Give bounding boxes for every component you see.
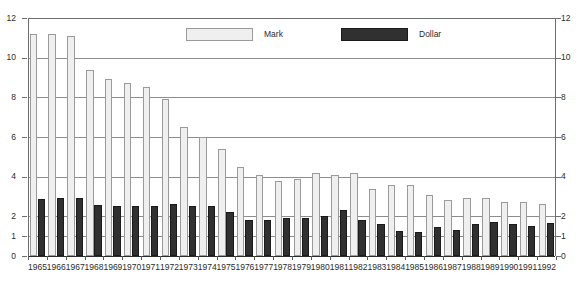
bar-dollar [358, 220, 365, 256]
bar-mark [48, 34, 55, 256]
bar-mark [86, 70, 93, 256]
x-tickmark [518, 256, 519, 260]
bar-mark [199, 137, 206, 256]
y-tick-left-12: 12 [7, 14, 16, 23]
bar-dollar [302, 218, 309, 256]
bar-dollar [38, 199, 45, 256]
bar-mark [520, 202, 527, 256]
bar-dollar [321, 216, 328, 256]
x-tickmark [103, 256, 104, 260]
bar-group [388, 18, 404, 256]
bar-mark [256, 175, 263, 256]
legend-label-dollar: Dollar [419, 30, 441, 39]
bar-dollar [434, 227, 441, 256]
bar-group [86, 18, 102, 256]
bar-dollar [76, 198, 83, 256]
y-tickmark-right-8 [556, 97, 561, 98]
bar-dollar [113, 206, 120, 256]
y-tick-left-10: 10 [7, 53, 16, 62]
legend-item-dollar[interactable]: Dollar [341, 28, 441, 41]
bar-mark [369, 189, 376, 256]
y-tickmark-left-10 [22, 58, 27, 59]
bar-dollar [57, 198, 64, 256]
bar-mark [162, 99, 169, 256]
y-tick-left-0: 0 [11, 252, 16, 261]
y-tick-right-2: 2 [561, 212, 566, 221]
x-tickmark [443, 256, 444, 260]
bar-mark [218, 149, 225, 256]
bar-dollar [208, 206, 215, 256]
bar-dollar [396, 231, 403, 256]
bar-group [143, 18, 159, 256]
bar-group [426, 18, 442, 256]
y-tick-right-10: 10 [561, 53, 570, 62]
x-tickmark [235, 256, 236, 260]
x-tickmark [254, 256, 255, 260]
legend-item-mark[interactable]: Mark [186, 28, 283, 41]
x-tick-label-1975: 1975 [217, 263, 236, 272]
bar-group [162, 18, 178, 256]
bar-group [407, 18, 423, 256]
bar-dollar [340, 210, 347, 256]
bar-dollar [490, 222, 497, 256]
bar-mark [482, 198, 489, 256]
y-tickmark-right-12 [556, 18, 561, 19]
bar-dollar [377, 224, 384, 256]
bar-mark [294, 179, 301, 256]
x-tick-label-1972: 1972 [160, 263, 179, 272]
y-tickmark-left-2 [22, 216, 27, 217]
y-tick-left-8: 8 [11, 93, 16, 102]
bar-series-container [28, 18, 556, 256]
x-tickmark [217, 256, 218, 260]
x-tick-label-1966: 1966 [47, 263, 66, 272]
y-tick-left-1: 1 [11, 232, 16, 241]
bar-group [444, 18, 460, 256]
bar-mark [501, 202, 508, 256]
x-tick-label-1982: 1982 [349, 263, 368, 272]
y-tickmark-right-4 [556, 177, 561, 178]
bar-dollar [528, 226, 535, 256]
bar-group [294, 18, 310, 256]
x-tick-label-1976: 1976 [235, 263, 254, 272]
bar-dollar [245, 220, 252, 256]
x-tick-label-1973: 1973 [179, 263, 198, 272]
legend-swatch-mark [186, 28, 253, 41]
x-tick-label-1970: 1970 [122, 263, 141, 272]
bar-dollar [94, 205, 101, 256]
x-tickmark [424, 256, 425, 260]
bar-group [501, 18, 517, 256]
y-tickmark-right-0 [556, 256, 561, 257]
y-tick-right-4: 4 [561, 172, 566, 181]
bar-group [275, 18, 291, 256]
y-tick-left-4: 4 [11, 172, 16, 181]
bar-group [350, 18, 366, 256]
y-tick-right-8: 8 [561, 93, 566, 102]
bar-group [67, 18, 83, 256]
bar-mark [426, 195, 433, 256]
bar-group [218, 18, 234, 256]
bar-mark [124, 83, 131, 256]
x-tickmark [66, 256, 67, 260]
x-tick-label-1985: 1985 [405, 263, 424, 272]
x-tick-label-1990: 1990 [499, 263, 518, 272]
y-tickmark-right-10 [556, 58, 561, 59]
legend-label-mark: Mark [264, 30, 283, 39]
bar-dollar [472, 224, 479, 256]
x-tick-label-1991: 1991 [518, 263, 537, 272]
bar-group [369, 18, 385, 256]
x-tickmark [160, 256, 161, 260]
bar-group [331, 18, 347, 256]
bar-dollar [170, 204, 177, 256]
x-tickmark [28, 256, 29, 260]
y-tick-right-1: 1 [561, 232, 566, 241]
x-tick-label-1983: 1983 [367, 263, 386, 272]
x-tick-label-1971: 1971 [141, 263, 160, 272]
x-tick-label-1965: 1965 [28, 263, 47, 272]
bar-group [48, 18, 64, 256]
x-tickmark [499, 256, 500, 260]
bar-mark [407, 185, 414, 256]
y-tick-right-6: 6 [561, 133, 566, 142]
bar-mark [350, 173, 357, 256]
x-tickmark [405, 256, 406, 260]
bar-mark [539, 204, 546, 256]
